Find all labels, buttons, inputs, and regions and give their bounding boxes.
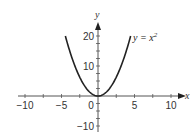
chart-plot: −10−50510−101020 x y y = x2 <box>0 0 193 139</box>
curve-label-exponent: 2 <box>154 31 158 39</box>
axes <box>18 22 186 132</box>
y-tick-label: 20 <box>83 31 95 42</box>
curve-label-base: y = x <box>132 32 154 43</box>
x-tick-label: −5 <box>56 100 68 111</box>
x-tick-label: 10 <box>165 100 177 111</box>
y-axis-label: y <box>94 9 100 20</box>
y-axis-arrow-icon <box>95 22 101 30</box>
curve-label: y = x2 <box>132 31 158 43</box>
x-tick-label: −10 <box>17 100 34 111</box>
x-axis-label: x <box>184 90 190 101</box>
y-tick-label: 10 <box>83 61 95 72</box>
x-tick-label: 0 <box>88 100 94 111</box>
y-tick-label: −10 <box>77 121 94 132</box>
x-tick-label: 5 <box>132 100 138 111</box>
